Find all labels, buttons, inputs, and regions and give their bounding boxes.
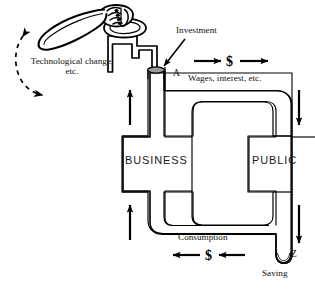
dollar-sign-wages: $ [226, 54, 233, 70]
wages-label: Wages, interest, etc. [188, 74, 262, 84]
investment-pointer-arrow [164, 39, 185, 66]
business-left-outer-wall [123, 72, 276, 234]
saving-tube-cap [276, 252, 291, 263]
business-right-inner-wall [165, 72, 269, 226]
point-z-label: Z [291, 250, 297, 260]
saving-tube-inner-meniscus [278, 253, 290, 261]
top-channel-lower-wall [192, 102, 276, 138]
pipe-a-opening-ellipse [148, 67, 165, 73]
public-tank-label: PUBLIC [252, 154, 297, 166]
point-a-label: A [173, 69, 180, 79]
investment-label: Investment [176, 26, 217, 36]
bottom-channel-upper-wall [192, 191, 249, 226]
technological-change-label: Technological change, etc. [30, 56, 114, 77]
business-tank-outline [122, 70, 275, 234]
business-tank-label: BUSINESS [125, 154, 188, 166]
saving-label: Saving [262, 269, 288, 279]
business-inner-profile [164, 70, 273, 226]
diagram-canvas [0, 0, 315, 294]
consumption-label: Consumption [178, 233, 228, 243]
pump-body-outline [108, 36, 157, 72]
circular-flow-diagram: Technological change, etc. Investment A … [0, 0, 315, 294]
dollar-sign-consumption: $ [205, 248, 212, 264]
pump-handle [39, 10, 107, 50]
